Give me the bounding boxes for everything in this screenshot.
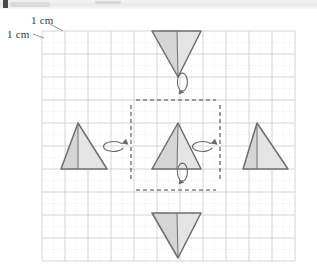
diagram-canvas [0,0,317,274]
diagram-page: 1 cm 1 cm [0,0,317,274]
triangle-bottom [152,213,201,258]
triangles-group [61,31,288,258]
flip-arrow-left [103,139,128,152]
flip-arrow-top [177,73,187,94]
pointer-top-cm [50,24,63,31]
flip-arrow-right [192,139,217,152]
